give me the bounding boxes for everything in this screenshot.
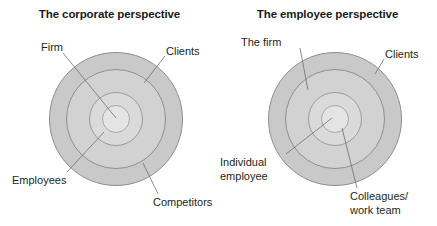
label-employees-text: Employees: [12, 174, 66, 186]
concentric-circles-figure: The corporate perspective Firm Clients E…: [0, 0, 437, 226]
label-colleagues-work-team-line2: work team: [350, 204, 436, 218]
label-competitors-text: Competitors: [153, 196, 212, 208]
ring-core-individual-employee: [321, 105, 349, 133]
label-the-firm-text: The firm: [241, 36, 281, 48]
label-clients-corporate: Clients: [166, 45, 200, 59]
label-employees: Employees: [12, 174, 66, 188]
label-firm-text: Firm: [41, 41, 63, 53]
label-colleagues-work-team: Colleagues/ work team: [350, 190, 436, 217]
label-colleagues-work-team-line1: Colleagues/: [350, 190, 436, 204]
label-individual-employee-line2: employee: [220, 170, 292, 184]
label-clients-employee-text: Clients: [385, 48, 419, 60]
label-clients-employee: Clients: [385, 48, 419, 62]
panel-corporate-perspective: The corporate perspective Firm Clients E…: [0, 0, 219, 226]
label-individual-employee-line1: Individual: [220, 156, 292, 170]
label-competitors: Competitors: [153, 196, 212, 210]
label-the-firm: The firm: [241, 36, 281, 50]
ring-core-firm: [102, 105, 130, 133]
panel-title-employee: The employee perspective: [218, 7, 437, 21]
label-individual-employee: Individual employee: [220, 156, 292, 183]
panel-employee-perspective: The employee perspective The firm Client…: [218, 0, 437, 226]
bullseye-corporate: [49, 52, 183, 186]
label-firm: Firm: [41, 41, 63, 55]
label-clients-corporate-text: Clients: [166, 45, 200, 57]
panel-title-corporate: The corporate perspective: [0, 7, 219, 21]
